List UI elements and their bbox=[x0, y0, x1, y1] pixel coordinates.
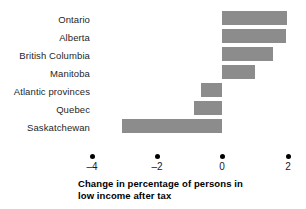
axis-tick-dot-minus4 bbox=[90, 154, 95, 159]
bar-ontario bbox=[222, 11, 287, 25]
axis-tick-label-zero: 0 bbox=[207, 161, 237, 173]
bar-british-columbia bbox=[222, 47, 273, 61]
axis-tick-label-minus4: –4 bbox=[77, 161, 107, 173]
bar-saskatchewan bbox=[122, 119, 222, 133]
axis-tick-label-two: 2 bbox=[273, 161, 303, 173]
bar-atlantic-provinces bbox=[201, 83, 222, 97]
bar-alberta bbox=[222, 29, 286, 43]
axis-title-line-1: Change in percentage of persons in bbox=[78, 178, 288, 190]
bar-quebec bbox=[194, 101, 222, 115]
bar-chart: Ontario Alberta British Columbia Manitob… bbox=[0, 0, 306, 209]
axis-tick-dot-minus2 bbox=[155, 154, 160, 159]
axis-tick-dot-zero bbox=[220, 154, 225, 159]
axis-tick-label-minus2: –2 bbox=[142, 161, 172, 173]
axis-tick-dot-two bbox=[286, 154, 291, 159]
axis-title: Change in percentage of persons in low i… bbox=[78, 178, 288, 201]
bar-manitoba bbox=[222, 65, 255, 79]
axis-title-line-2: low income after tax bbox=[78, 190, 288, 202]
